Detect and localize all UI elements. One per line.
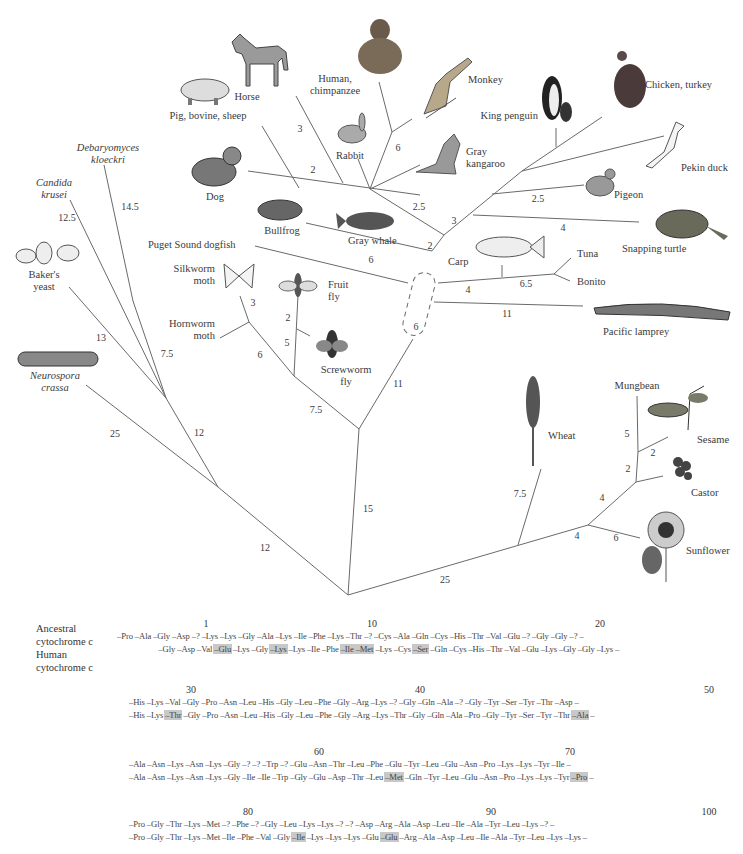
amino-acid: –Lys: [204, 759, 222, 769]
amino-acid: –Asp: [436, 832, 456, 842]
branch-bakers-yeast: [69, 287, 166, 398]
amino-acid: –Ala: [490, 832, 508, 842]
branch-fungi-root: [218, 487, 348, 595]
branch-animal-stem: [359, 339, 413, 429]
residue-position-number: 80: [243, 806, 253, 817]
amino-acid: –Pro: [128, 832, 146, 842]
kangaroo-illustration: [414, 132, 470, 176]
amino-acid: –Tyr: [484, 819, 502, 829]
amino-acid: –Cys: [373, 631, 392, 641]
amino-acid: –Glu: [502, 631, 521, 641]
vertebrate-node-box: [401, 270, 438, 337]
amino-acid: –Met: [201, 819, 221, 829]
amino-acid: –?: [344, 819, 354, 829]
ancestral-sequence-row: –His–Lys–Val–Gly–Pro–Asn–Leu–His–Gly–Leu…: [128, 697, 580, 707]
branch-length-mammal-stem: 2.5: [413, 201, 426, 212]
amino-acid: –Asn: [218, 697, 238, 707]
chimpanzee-illustration: [354, 16, 406, 74]
amino-acid: –Thr: [485, 644, 503, 654]
branch-dog: [248, 171, 420, 195]
amino-acid: –Gly: [237, 631, 256, 641]
amino-acid: –Ile: [551, 759, 566, 769]
residue-position-number: 30: [186, 684, 196, 695]
label-hornworm-1: Hornworm: [169, 318, 215, 330]
amino-acid: –Glu: [440, 759, 459, 769]
branch-bonito: [554, 274, 570, 281]
branch-monkey: [392, 119, 412, 132]
amino-acid: –Lys: [183, 832, 201, 842]
label-castor: Castor: [691, 487, 718, 499]
branch-length-bakers-yeast: 13: [96, 332, 106, 343]
branch-length-tuna-bonito: 6.5: [520, 278, 533, 289]
amino-acid: –Val: [164, 697, 181, 707]
lamprey-illustration: [592, 298, 732, 328]
sequence-alignment: Ancestral cytochrome c Human cytochrome …: [0, 612, 743, 854]
amino-acid: –Leu: [346, 759, 365, 769]
amino-acid: –Gly: [250, 644, 269, 654]
amino-acid: –Lys: [166, 759, 184, 769]
amino-acid: –Tyr: [500, 710, 518, 720]
branch-length-debaryomyces: 14.5: [121, 201, 139, 212]
label-hornworm-2: moth: [193, 330, 215, 342]
amino-acid: –Val: [255, 832, 272, 842]
amino-acid: –Lys: [183, 819, 201, 829]
amino-acid: –Asn: [459, 759, 479, 769]
amino-acid: –Ile: [450, 819, 465, 829]
amino-acid: –Met: [201, 832, 221, 842]
amino-acid: –Thr: [165, 819, 183, 829]
branch-fungi-stem: [166, 398, 218, 487]
penguin-illustration: [538, 68, 574, 122]
branch-length-fungi-stem: 12: [194, 427, 204, 438]
amino-acid: –Pro: [116, 631, 134, 641]
amino-acid: –Glu: [521, 644, 540, 654]
amino-acid: –Lys: [371, 710, 389, 720]
branch-length-fungi-root: 12: [260, 542, 270, 553]
amino-acid: –?: [363, 631, 373, 641]
label-bullfrog: Bullfrog: [264, 225, 300, 237]
amino-acid: –Gly: [157, 644, 176, 654]
branch-castor: [636, 476, 663, 482]
amino-acid: –Phe: [321, 644, 340, 654]
amino-acid: –Lys: [514, 759, 532, 769]
label-fruit-fly-1: Fruit: [328, 279, 348, 291]
amino-acid: –?: [241, 759, 251, 769]
amino-acid: –Phe: [236, 832, 255, 842]
label-silkworm-2: moth: [193, 275, 215, 287]
label-pacific-lamprey: Pacific lamprey: [603, 326, 669, 338]
amino-acid: –Gln: [426, 710, 445, 720]
amino-acid: –Leu: [501, 819, 520, 829]
label-human-chimp-1: Human,: [318, 73, 352, 85]
amino-acid: –Gly: [272, 832, 291, 842]
amino-acid: –Pro: [570, 772, 588, 782]
amino-acid: –Arg: [352, 710, 371, 720]
amino-acid: –Lys: [201, 631, 219, 641]
label-human-chimp-2: chimpanzee: [310, 85, 360, 97]
ancestral-sequence-row: –Pro–Ala–Gly–Asp–?–Lys–Lys–Gly–Ala–Lys–I…: [116, 631, 585, 641]
amino-acid: –Tyr: [508, 832, 526, 842]
label-pigeon: Pigeon: [614, 189, 643, 201]
label-screwworm-1: Screwworm: [321, 364, 372, 376]
branch-length-hornworm: 6: [258, 349, 263, 360]
amino-acid: –Asn: [146, 759, 166, 769]
amino-acid: –Thr: [467, 631, 485, 641]
amino-acid: –Leu: [278, 819, 297, 829]
amino-acid: –Ala: [256, 631, 274, 641]
amino-acid: –Gly: [222, 772, 241, 782]
branch-castor-stem: [588, 482, 636, 525]
label-human-line2: cytochrome c: [36, 661, 93, 674]
turtle-illustration: [652, 206, 732, 244]
amino-acid: –Glu: [213, 644, 232, 654]
label-debaryomyces-1: Debaryomyces: [77, 142, 139, 154]
label-chicken-turkey: Chicken, turkey: [645, 79, 712, 91]
amino-acid: –Lys: [306, 832, 324, 842]
amino-acid: –Lys: [316, 819, 334, 829]
residue-position-number: 50: [704, 684, 714, 695]
amino-acid: –Lys: [540, 644, 558, 654]
amino-acid: –Gly: [333, 710, 352, 720]
amino-acid: –?: [251, 759, 261, 769]
amino-acid: –?: [250, 819, 260, 829]
amino-acid: –Ile: [256, 772, 271, 782]
amino-acid: –Lys: [274, 631, 292, 641]
amino-acid: –Gly: [182, 697, 201, 707]
amino-acid: –Met: [384, 772, 404, 782]
